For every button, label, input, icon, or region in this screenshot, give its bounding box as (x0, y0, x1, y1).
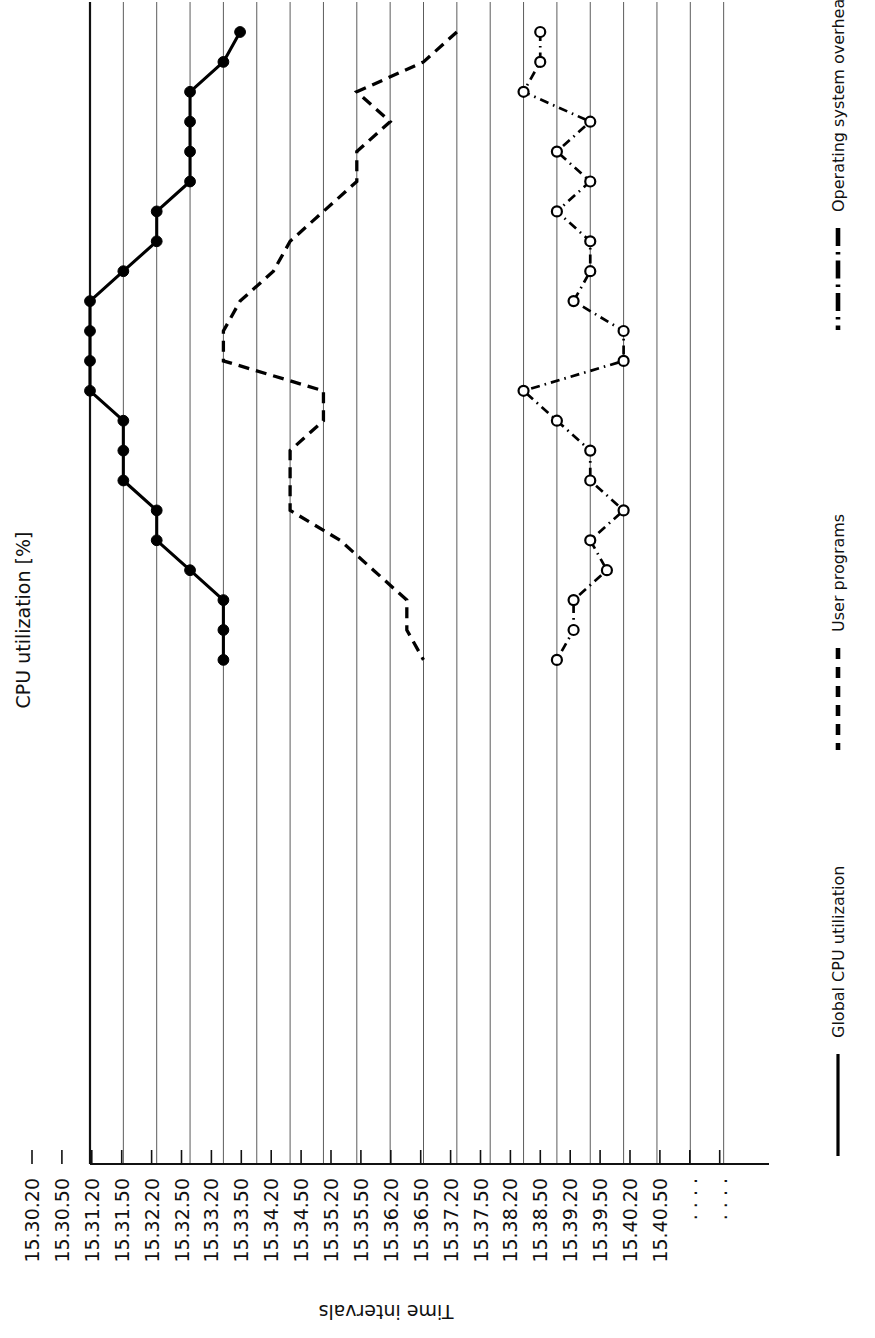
legend-label: Operating system overhead (829, 0, 848, 212)
value-axis-title: CPU utilization [%] (12, 532, 34, 709)
data-point (85, 385, 96, 396)
series-operating-system-overhead (519, 27, 629, 665)
category-tick-label: 15.32.20 (141, 1178, 163, 1263)
data-point (619, 356, 629, 366)
cpu-utilization-chart: 0102030405060708090100 15.30.2015.30.501… (0, 0, 875, 1338)
series-global-cpu-utilization (85, 27, 246, 666)
category-tick-label: 15.37.20 (440, 1178, 462, 1263)
data-point (185, 146, 196, 157)
data-point (585, 236, 595, 246)
category-tick-label: 15.34.50 (290, 1178, 312, 1263)
data-point (552, 206, 562, 216)
data-point (151, 236, 162, 247)
category-tick-label: 15.39.20 (559, 1178, 581, 1263)
data-point (118, 445, 129, 456)
category-tick-label: 15.40.50 (649, 1178, 671, 1263)
series-user-programs (223, 32, 456, 660)
data-point (519, 87, 529, 97)
category-tick-label: 15.33.20 (200, 1178, 222, 1263)
data-point (118, 475, 129, 486)
series-line (90, 32, 240, 660)
data-point (218, 625, 229, 636)
data-point (151, 505, 162, 516)
data-point (552, 655, 562, 665)
legend-entry: Global CPU utilization (829, 866, 848, 1156)
axis-ticks-group (32, 1150, 720, 1164)
data-point (569, 595, 579, 605)
category-tick-label: 15.31.50 (111, 1178, 133, 1263)
legend-label: User programs (829, 514, 848, 632)
data-point (151, 206, 162, 217)
data-point (569, 296, 579, 306)
data-point (85, 356, 96, 367)
category-axis-title: Time intervals (319, 1301, 455, 1323)
legend-entry: User programs (829, 514, 848, 750)
legend-label: Global CPU utilization (829, 866, 848, 1038)
category-tick-label: 15.30.20 (21, 1178, 43, 1263)
category-tick-label: 15.38.50 (529, 1178, 551, 1263)
data-point (569, 625, 579, 635)
legend-group: Operating system overheadUser programsGl… (829, 0, 848, 1156)
data-point (619, 505, 629, 515)
series-line (223, 32, 456, 660)
data-point (218, 655, 229, 666)
category-tick-label: 15.36.50 (410, 1178, 432, 1263)
data-point (535, 27, 545, 37)
data-point (585, 535, 595, 545)
category-tick-label: 15.39.50 (589, 1178, 611, 1263)
category-tick-ellipsis: . . . . (709, 1178, 731, 1220)
data-point (619, 326, 629, 336)
data-point (185, 176, 196, 187)
category-tick-label: 15.38.20 (499, 1178, 521, 1263)
category-tick-ellipsis: . . . . (679, 1178, 701, 1220)
data-point (85, 296, 96, 307)
data-point (585, 117, 595, 127)
data-point (602, 565, 612, 575)
data-point (218, 57, 229, 68)
data-point (585, 446, 595, 456)
category-tick-label: 15.36.20 (380, 1178, 402, 1263)
data-point (185, 116, 196, 127)
chart-canvas: 0102030405060708090100 15.30.2015.30.501… (0, 0, 875, 1338)
data-point (585, 266, 595, 276)
data-point (552, 147, 562, 157)
category-tick-label: 15.32.50 (171, 1178, 193, 1263)
category-tick-label: 15.35.50 (350, 1178, 372, 1263)
category-tick-label: 15.34.20 (260, 1178, 282, 1263)
data-point (118, 415, 129, 426)
data-point (585, 177, 595, 187)
gridlines-group (90, 2, 724, 1164)
data-point (519, 386, 529, 396)
data-point (535, 57, 545, 67)
legend-entry: Operating system overhead (829, 0, 848, 330)
data-point (235, 27, 246, 38)
category-tick-label: 15.40.20 (619, 1178, 641, 1263)
data-point (85, 326, 96, 337)
data-point (118, 266, 129, 277)
data-point (218, 595, 229, 606)
category-tick-labels-group: 15.30.2015.30.5015.31.2015.31.5015.32.20… (21, 1178, 731, 1263)
data-point (151, 535, 162, 546)
category-tick-label: 15.30.50 (51, 1178, 73, 1263)
data-point (185, 86, 196, 97)
category-tick-label: 15.33.50 (230, 1178, 252, 1263)
category-tick-label: 15.37.50 (470, 1178, 492, 1263)
category-tick-label: 15.35.20 (320, 1178, 342, 1263)
data-point (185, 565, 196, 576)
category-tick-label: 15.31.20 (81, 1178, 103, 1263)
data-point (552, 416, 562, 426)
data-point (585, 476, 595, 486)
